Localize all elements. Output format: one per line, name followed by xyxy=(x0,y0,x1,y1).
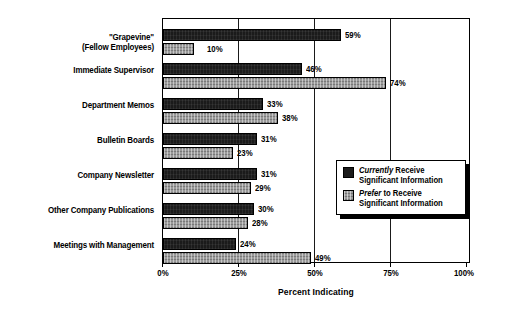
bar-value-current-grapevine: 59% xyxy=(345,29,361,41)
bar-value-current-immediate-supervisor: 46% xyxy=(306,63,322,75)
bar-prefer-meetings-with-management xyxy=(163,252,311,264)
x-axis-title: Percent Indicating xyxy=(170,287,463,297)
gridline-50 xyxy=(314,19,315,262)
bar-current-immediate-supervisor xyxy=(163,63,302,75)
tick-mark-25 xyxy=(238,263,239,267)
legend-label-prefer: Prefer to ReceiveSignificant Information xyxy=(359,189,443,208)
bar-prefer-department-memos xyxy=(163,112,278,124)
legend-item-prefer: Prefer to ReceiveSignificant Information xyxy=(343,189,461,208)
bar-prefer-bulletin-boards xyxy=(163,147,233,159)
legend-emphasis-currently: Currently xyxy=(359,166,393,175)
category-label-company-newsletter: Company Newsletter xyxy=(9,170,154,180)
legend-swatch-currently-icon xyxy=(343,167,354,178)
bar-value-current-department-memos: 33% xyxy=(267,98,283,110)
tick-label-75: 75% xyxy=(383,268,399,278)
legend-emphasis-prefer: Prefer xyxy=(359,189,381,198)
bar-value-prefer-immediate-supervisor: 74% xyxy=(390,77,406,89)
legend-rest-prefer: to Receive xyxy=(381,189,422,198)
bar-current-grapevine xyxy=(163,29,341,41)
legend-rest-currently: Receive xyxy=(393,166,424,175)
bar-prefer-other-company-publications xyxy=(163,217,248,229)
bar-value-prefer-other-company-publications: 28% xyxy=(252,217,268,229)
category-axis-labels: "Grapevine" (Fellow Employees) Immediate… xyxy=(0,18,158,263)
tick-mark-100 xyxy=(466,263,467,267)
bar-prefer-grapevine xyxy=(163,43,194,55)
category-label-meetings-with-management: Meetings with Management xyxy=(9,240,154,250)
legend-line2-currently: Significant Information xyxy=(359,176,443,185)
tick-label-50: 50% xyxy=(307,268,323,278)
tick-mark-75 xyxy=(390,263,391,267)
category-label-other-company-publications: Other Company Publications xyxy=(9,205,154,215)
category-label-grapevine: "Grapevine" (Fellow Employees) xyxy=(9,32,154,52)
bar-current-department-memos xyxy=(163,98,263,110)
bar-current-bulletin-boards xyxy=(163,133,257,145)
bar-value-current-bulletin-boards: 31% xyxy=(261,133,277,145)
bar-prefer-immediate-supervisor xyxy=(163,77,386,89)
bar-current-meetings-with-management xyxy=(163,238,236,250)
legend-item-currently: Currently ReceiveSignificant Information xyxy=(343,166,461,185)
plot-area: 59% 10% 46% 74% 33% 38% 31% 23% 31% 29% … xyxy=(162,18,470,263)
tick-label-0: 0% xyxy=(157,268,168,278)
category-label-department-memos: Department Memos xyxy=(9,100,154,110)
legend-swatch-prefer-icon xyxy=(343,190,354,201)
chart-figure: "Grapevine" (Fellow Employees) Immediate… xyxy=(0,0,509,312)
tick-label-100: 100% xyxy=(454,268,474,278)
chart-legend: Currently ReceiveSignificant Information… xyxy=(336,160,466,215)
bar-current-other-company-publications xyxy=(163,203,254,215)
bar-prefer-company-newsletter xyxy=(163,182,251,194)
bar-value-prefer-bulletin-boards: 23% xyxy=(237,147,253,159)
bar-value-prefer-grapevine: 10% xyxy=(207,43,223,55)
bar-current-company-newsletter xyxy=(163,168,257,180)
bar-value-prefer-company-newsletter: 29% xyxy=(255,182,271,194)
category-label-immediate-supervisor: Immediate Supervisor xyxy=(9,65,154,75)
legend-label-currently: Currently ReceiveSignificant Information xyxy=(359,166,443,185)
bar-value-current-other-company-publications: 30% xyxy=(258,203,274,215)
bar-value-prefer-meetings-with-management: 49% xyxy=(315,252,331,264)
bar-value-current-company-newsletter: 31% xyxy=(261,168,277,180)
tick-label-25: 25% xyxy=(231,268,247,278)
legend-line2-prefer: Significant Information xyxy=(359,199,443,208)
category-label-bulletin-boards: Bulletin Boards xyxy=(9,135,154,145)
bar-value-prefer-department-memos: 38% xyxy=(282,112,298,124)
gridline-75 xyxy=(390,19,391,262)
bar-value-current-meetings-with-management: 24% xyxy=(240,238,256,250)
tick-mark-0 xyxy=(162,263,163,267)
tick-mark-50 xyxy=(314,263,315,267)
